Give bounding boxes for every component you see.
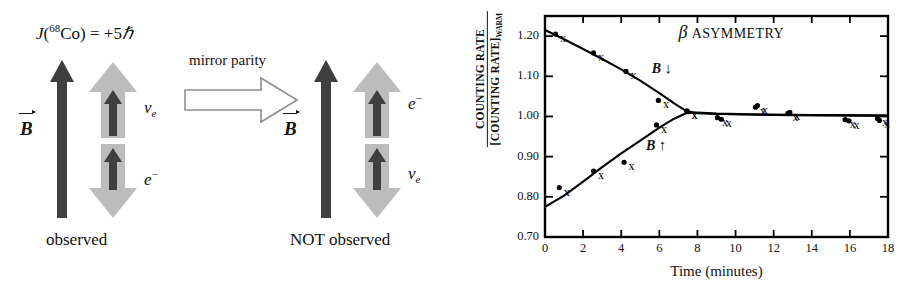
x-tick-label-6: 12 bbox=[759, 241, 789, 256]
not-observed-arrows bbox=[288, 60, 438, 220]
mirror-parity-label: mirror parity bbox=[189, 52, 266, 69]
marker-x-glyph: x bbox=[792, 110, 798, 124]
annotation-field-symbol: B bbox=[652, 61, 661, 76]
y-axis-denominator: [COUNTING RATE] bbox=[489, 38, 501, 146]
datapoint-0-0: x bbox=[553, 31, 566, 45]
spin-label: J(68Co) = +5ℏ bbox=[36, 22, 133, 44]
annotation-field-symbol: B bbox=[646, 138, 655, 153]
marker-dot bbox=[875, 116, 880, 121]
particle-label-not-observed-bottom: νe bbox=[408, 164, 420, 185]
particle-label-not-observed-top: e− bbox=[408, 92, 422, 114]
beta-asymmetry-chart: COUNTING RATE [COUNTING RATE]WARM β ASYM… bbox=[460, 0, 920, 288]
marker-x-glyph: x bbox=[560, 31, 566, 45]
y-axis-numerator: COUNTING RATE bbox=[474, 11, 488, 147]
marker-dot bbox=[591, 169, 596, 174]
marker-dot bbox=[553, 31, 558, 36]
chart-title-text: ASYMMETRY bbox=[692, 26, 784, 41]
b-field-up-annotation: B ↑ bbox=[646, 137, 666, 154]
beta-symbol: β bbox=[678, 22, 687, 42]
marker-dot bbox=[715, 115, 720, 120]
datapoint-1-7: x bbox=[785, 110, 798, 124]
datapoint-1-2: x bbox=[621, 159, 634, 173]
marker-x-glyph: x bbox=[691, 108, 697, 122]
x-tick-label-3: 6 bbox=[644, 241, 674, 256]
x-tick-label-8: 16 bbox=[835, 241, 865, 256]
annotation-direction-arrow-icon: ↓ bbox=[665, 60, 673, 76]
marker-x-glyph: x bbox=[564, 185, 570, 199]
b-field-down-annotation: B ↓ bbox=[652, 60, 672, 77]
particle-label-observed-top: νe bbox=[144, 98, 156, 119]
x-tick-label-0: 0 bbox=[530, 241, 560, 256]
datapoint-0-3: x bbox=[656, 97, 669, 111]
y-tick-label-5: 1.20 bbox=[495, 28, 539, 43]
datapoint-1-6: x bbox=[753, 104, 766, 118]
datapoint-1-0: x bbox=[557, 185, 570, 199]
chart-title: β ASYMMETRY bbox=[678, 22, 784, 43]
particle-label-observed-bottom: e− bbox=[144, 168, 158, 190]
marker-dot bbox=[656, 98, 661, 103]
marker-x-glyph: x bbox=[760, 104, 766, 118]
marker-dot bbox=[557, 185, 562, 190]
x-tick-label-4: 8 bbox=[682, 241, 712, 256]
marker-dot bbox=[654, 122, 659, 127]
marker-x-glyph: x bbox=[598, 50, 604, 64]
marker-x-glyph: x bbox=[882, 115, 888, 129]
datapoint-0-1: x bbox=[591, 50, 604, 64]
marker-dot bbox=[621, 160, 626, 165]
marker-x-glyph: x bbox=[598, 168, 604, 182]
marker-dot bbox=[843, 117, 848, 122]
y-tick-label-3: 1.00 bbox=[495, 108, 539, 123]
marker-x-glyph: x bbox=[630, 68, 636, 82]
datapoint-1-4: x bbox=[684, 108, 697, 122]
x-tick-label-2: 4 bbox=[606, 241, 636, 256]
y-tick-label-2: 0.90 bbox=[495, 149, 539, 164]
marker-x-glyph: x bbox=[663, 97, 669, 111]
datapoint-1-9: x bbox=[875, 115, 888, 129]
element-symbol: Co bbox=[60, 24, 80, 43]
not-observed-group: B e− νe NOT observed bbox=[288, 60, 438, 224]
hbar-symbol: ℏ bbox=[122, 24, 133, 43]
curve-b-up bbox=[545, 112, 888, 206]
x-tick-label-1: 2 bbox=[568, 241, 598, 256]
plot-frame bbox=[545, 16, 888, 237]
marker-x-glyph: x bbox=[629, 159, 635, 173]
y-tick-label-1: 0.80 bbox=[495, 189, 539, 204]
b-field-arrow-observed bbox=[50, 60, 74, 218]
marker-dot bbox=[684, 109, 689, 114]
observed-arrows bbox=[24, 60, 174, 220]
marker-x-glyph: x bbox=[661, 122, 667, 136]
x-tick-label-7: 14 bbox=[797, 241, 827, 256]
datapoint-0-2: x bbox=[623, 68, 636, 82]
datapoint-1-5: x bbox=[715, 115, 728, 129]
marker-dot bbox=[753, 105, 758, 110]
b-field-label-not-observed: B bbox=[284, 118, 297, 140]
marker-dot bbox=[623, 69, 628, 74]
marker-x-glyph: x bbox=[722, 115, 728, 129]
marker-dot bbox=[591, 50, 596, 55]
isotope-mass-number: 68 bbox=[49, 22, 60, 34]
marker-x-glyph: x bbox=[850, 117, 856, 131]
marker-dot bbox=[785, 111, 790, 116]
figure-root: J(68Co) = +5ℏ bbox=[0, 0, 920, 288]
parity-violation-diagram: J(68Co) = +5ℏ bbox=[0, 0, 460, 288]
annotation-direction-arrow-icon: ↑ bbox=[659, 137, 667, 153]
datapoint-1-8: x bbox=[843, 117, 856, 131]
x-tick-label-5: 10 bbox=[721, 241, 751, 256]
x-tick-label-9: 18 bbox=[873, 241, 903, 256]
observed-caption: observed bbox=[46, 230, 107, 250]
observed-group: B νe e− observed bbox=[24, 60, 174, 224]
b-field-arrow-not-observed bbox=[314, 60, 338, 218]
not-observed-caption: NOT observed bbox=[290, 230, 390, 250]
y-tick-label-4: 1.10 bbox=[495, 68, 539, 83]
x-axis-title: Time (minutes) bbox=[545, 263, 888, 280]
b-field-label-observed: B bbox=[20, 118, 33, 140]
